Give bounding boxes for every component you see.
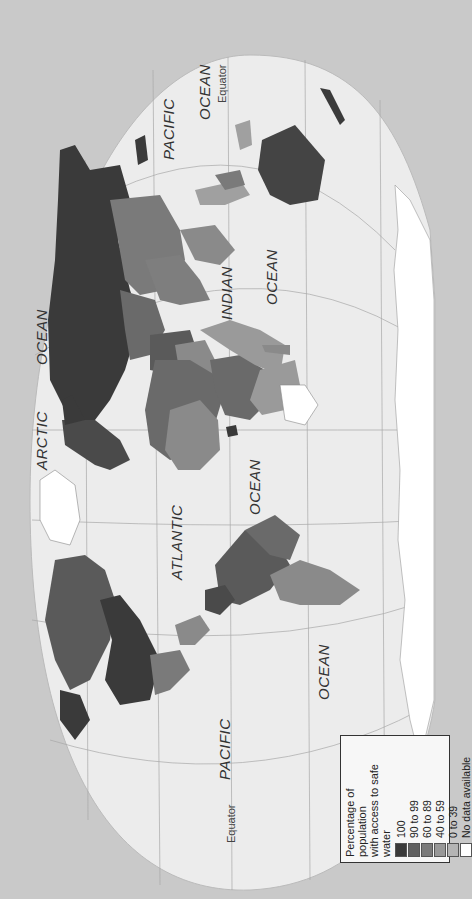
label-indian: INDIAN [218, 266, 235, 320]
legend-swatch [460, 843, 472, 857]
label-pacific-east: PACIFIC [160, 98, 177, 160]
label-equator-west: Equator [225, 804, 237, 843]
legend-swatch [395, 843, 407, 857]
label-ocean-indian: OCEAN [263, 249, 280, 305]
legend-swatch [434, 843, 446, 857]
legend-swatch [408, 843, 420, 857]
legend-title-line2: with access to safe water [368, 741, 392, 857]
legend-item-40-59: 40 to 59 [433, 741, 446, 857]
legend-item-no-data: No data available [459, 741, 472, 857]
legend-item-0-39: 0 to 39 [446, 741, 459, 857]
legend-label: 0 to 39 [447, 806, 459, 838]
legend-item-60-89: 60 to 89 [420, 741, 433, 857]
label-arctic: ARCTIC [33, 411, 50, 470]
label-ocean-atlantic: OCEAN [246, 459, 263, 515]
label-ocean-pacific-west: OCEAN [315, 644, 332, 700]
legend-label: 40 to 59 [434, 800, 446, 838]
label-ocean-pacific-east: OCEAN [196, 64, 213, 120]
legend-swatch [421, 843, 433, 857]
label-ocean-arctic: OCEAN [33, 309, 50, 365]
legend-title-line1: Percentage of population [344, 741, 368, 857]
legend-label: 100 [395, 820, 407, 838]
label-pacific-west: PACIFIC [216, 718, 233, 780]
legend-swatch [447, 843, 459, 857]
legend-item-90-99: 90 to 99 [407, 741, 420, 857]
label-atlantic: ATLANTIC [168, 505, 185, 580]
legend-title: Percentage of population with access to … [344, 741, 392, 857]
legend-item-100: 100 [394, 741, 407, 857]
legend: Percentage of population with access to … [340, 735, 450, 863]
gulf-guinea-dark [226, 425, 238, 437]
label-equator-east: Equator [216, 64, 228, 103]
legend-label: No data available [460, 757, 472, 838]
legend-label: 60 to 89 [421, 800, 433, 838]
legend-label: 90 to 99 [408, 800, 420, 838]
